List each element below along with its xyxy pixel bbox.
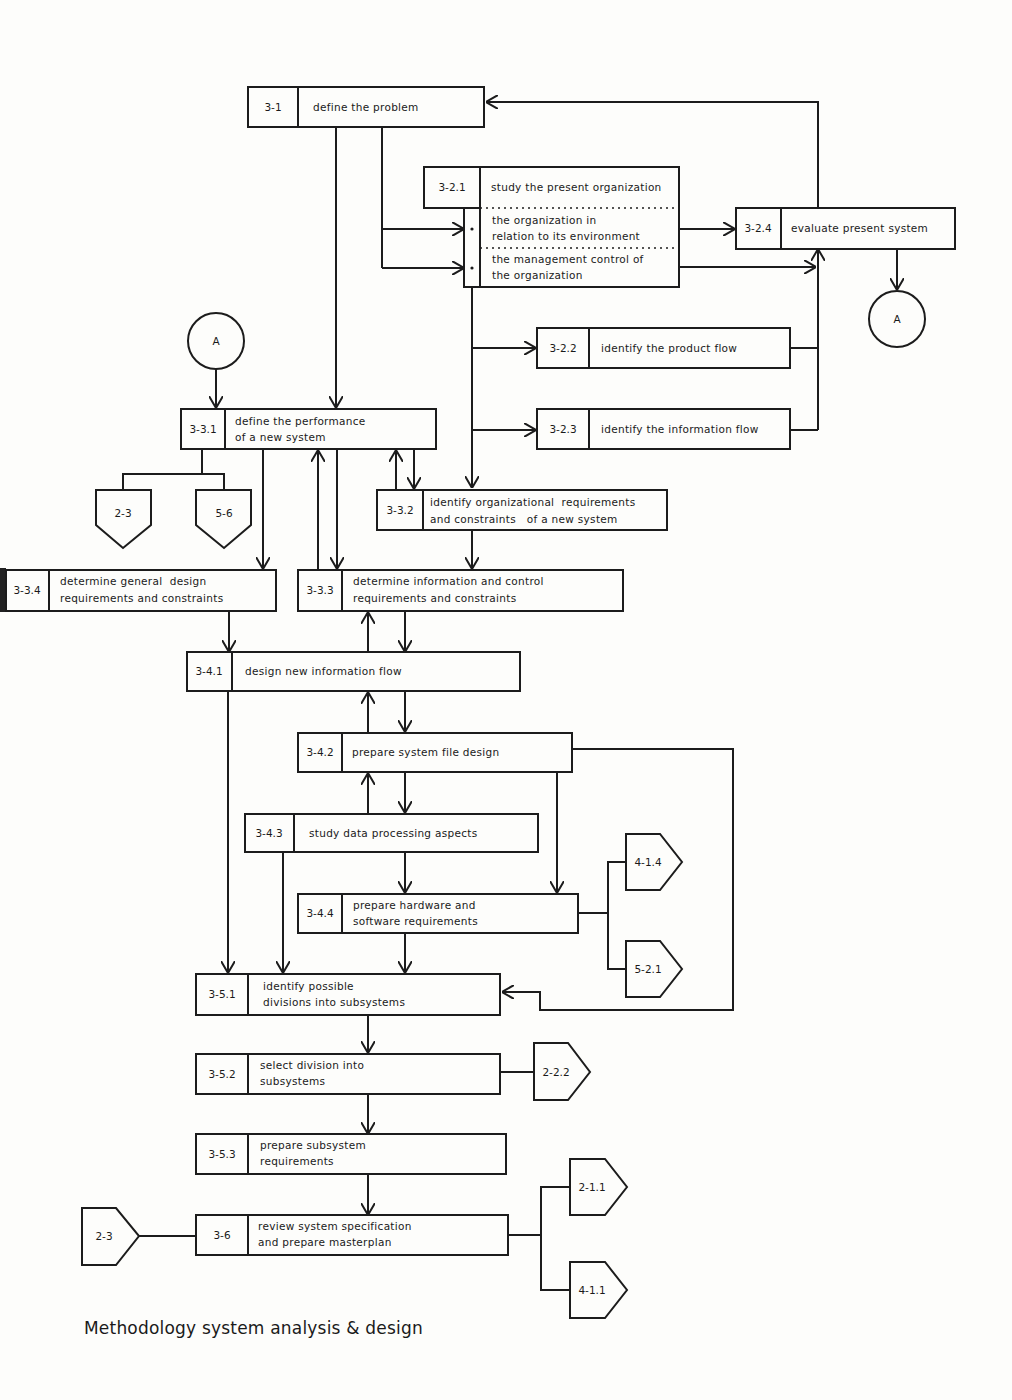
- step-label-line2: and constraints of a new system: [430, 513, 618, 525]
- step-id: 3-4.2: [306, 746, 333, 758]
- svg-text:A: A: [893, 313, 901, 325]
- step-id: 3-4.1: [195, 665, 222, 677]
- step-label-line1: review system specification: [258, 1220, 412, 1232]
- svg-text:A: A: [212, 335, 220, 347]
- offpage-connector-2-3-down[interactable]: 2-3: [96, 490, 151, 548]
- process-box-3-2-2[interactable]: 3-2.2 identify the product flow: [537, 328, 790, 368]
- process-box-3-5-1[interactable]: 3-5.1 identify possible divisions into s…: [196, 974, 500, 1015]
- process-box-3-2-3[interactable]: 3-2.3 identify the information flow: [537, 409, 790, 449]
- process-box-3-1[interactable]: 3-1 define the problem: [248, 87, 484, 127]
- step-id: 3-4.3: [255, 827, 282, 839]
- step-label-line1: determine general design: [60, 575, 206, 587]
- flowchart: 3-1 define the problem 3-2.1 study the p…: [0, 0, 1012, 1400]
- svg-text:2-3: 2-3: [114, 507, 131, 519]
- process-box-3-2-4[interactable]: 3-2.4 evaluate present system: [736, 208, 955, 249]
- step-label: identify the product flow: [601, 342, 737, 354]
- step-id: 3-3.2: [386, 504, 413, 516]
- offpage-connector-2-1-1[interactable]: 2-1.1: [570, 1159, 627, 1215]
- step-label: evaluate present system: [791, 222, 928, 234]
- step-label: design new information flow: [245, 665, 402, 677]
- step-label-line2: subsystems: [260, 1075, 325, 1087]
- step-id: 3-6: [213, 1229, 230, 1241]
- diagram-caption: Methodology system analysis & design: [84, 1318, 423, 1338]
- sub-item-management-line1: the management control of: [492, 253, 644, 265]
- step-label-line2: and prepare masterplan: [258, 1236, 392, 1248]
- step-id: 3-5.3: [208, 1148, 235, 1160]
- svg-text:4-1.4: 4-1.4: [634, 856, 661, 868]
- process-box-3-5-2[interactable]: 3-5.2 select division into subsystems: [196, 1054, 500, 1094]
- connector-a-left: A: [188, 313, 244, 369]
- step-label-line1: identify organizational requirements: [430, 496, 635, 508]
- process-box-3-4-4[interactable]: 3-4.4 prepare hardware and software requ…: [298, 894, 578, 933]
- step-id: 3-5.1: [208, 988, 235, 1000]
- connector-a-right: A: [869, 291, 925, 347]
- step-id: 3-1: [264, 101, 281, 113]
- offpage-connector-4-1-4[interactable]: 4-1.4: [626, 834, 682, 890]
- step-label: study data processing aspects: [309, 827, 477, 839]
- process-box-3-4-3[interactable]: 3-4.3 study data processing aspects: [245, 814, 538, 852]
- step-id: 3-4.4: [306, 907, 333, 919]
- step-label-line2: requirements: [260, 1155, 334, 1167]
- step-id: 3-5.2: [208, 1068, 235, 1080]
- step-label-line1: define the performance: [235, 415, 366, 427]
- process-box-3-5-3[interactable]: 3-5.3 prepare subsystem requirements: [196, 1134, 506, 1174]
- offpage-connector-4-1-1[interactable]: 4-1.1: [570, 1262, 627, 1318]
- offpage-connector-2-3-in[interactable]: 2-3: [82, 1208, 139, 1265]
- svg-text:2-3: 2-3: [95, 1230, 112, 1242]
- svg-text:5-6: 5-6: [215, 507, 232, 519]
- step-id: 3-3.1: [189, 423, 216, 435]
- step-label: study the present organization: [491, 181, 662, 193]
- svg-text:2-1.1: 2-1.1: [578, 1181, 605, 1193]
- process-box-3-4-2[interactable]: 3-4.2 prepare system file design: [298, 733, 572, 772]
- step-label-line1: identify possible: [263, 980, 354, 992]
- svg-text:2-2.2: 2-2.2: [542, 1066, 569, 1078]
- offpage-connector-5-2-1[interactable]: 5-2.1: [626, 941, 682, 997]
- step-id: 3-2.4: [744, 222, 771, 234]
- sub-item-environment-line2: relation to its environment: [492, 230, 640, 242]
- step-label-line1: select division into: [260, 1059, 364, 1071]
- svg-text:4-1.1: 4-1.1: [578, 1284, 605, 1296]
- step-id: 3-3.3: [306, 584, 333, 596]
- step-label-line1: prepare subsystem: [260, 1139, 366, 1151]
- offpage-connector-2-2-2[interactable]: 2-2.2: [534, 1043, 590, 1100]
- step-label-line2: requirements and constraints: [60, 592, 223, 604]
- process-box-3-3-2[interactable]: 3-3.2 identify organizational requiremen…: [377, 490, 667, 530]
- sub-item-environment-line1: the organization in: [492, 214, 596, 226]
- process-box-3-3-1[interactable]: 3-3.1 define the performance of a new sy…: [181, 409, 436, 449]
- process-box-3-3-4[interactable]: 3-3.4 determine general design requireme…: [6, 570, 276, 611]
- step-label-line1: prepare hardware and: [353, 899, 476, 911]
- step-label-line2: divisions into subsystems: [263, 996, 405, 1008]
- step-label: prepare system file design: [352, 746, 499, 758]
- step-label: identify the information flow: [601, 423, 759, 435]
- process-box-3-4-1[interactable]: 3-4.1 design new information flow: [187, 652, 520, 691]
- step-label-line2: software requirements: [353, 915, 478, 927]
- sub-item-management-line2: the organization: [492, 269, 583, 281]
- step-id: 3-3.4: [13, 584, 40, 596]
- step-label-line2: of a new system: [235, 431, 326, 443]
- process-box-3-6[interactable]: 3-6 review system specification and prep…: [196, 1215, 508, 1255]
- offpage-connector-5-6-down[interactable]: 5-6: [196, 490, 251, 548]
- step-label: define the problem: [313, 101, 419, 113]
- step-label-line2: requirements and constraints: [353, 592, 516, 604]
- step-id: 3-2.3: [549, 423, 576, 435]
- step-label-line1: determine information and control: [353, 575, 544, 587]
- svg-text:5-2.1: 5-2.1: [634, 963, 661, 975]
- step-id: 3-2.2: [549, 342, 576, 354]
- process-box-3-3-3[interactable]: 3-3.3 determine information and control …: [298, 570, 623, 611]
- step-id: 3-2.1: [438, 181, 465, 193]
